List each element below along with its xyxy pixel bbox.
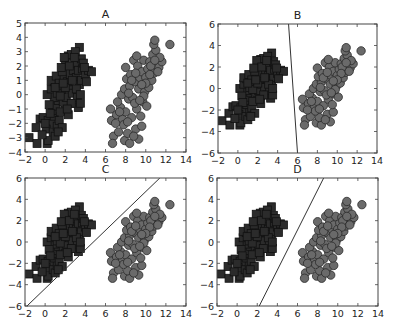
y-tick-label: 6 xyxy=(209,19,215,30)
subplot-title: C xyxy=(102,163,110,176)
x-tick-label: 12 xyxy=(352,308,364,319)
y-tick-label: −1 xyxy=(8,104,22,115)
subplot-a: A−202468101214−4−3−2−1012345 xyxy=(8,8,192,165)
y-axis: −6−4−20246 xyxy=(8,173,186,312)
subplot-title: B xyxy=(294,9,302,22)
y-axis: −6−4−20246 xyxy=(200,173,378,312)
y-tick-label: 1 xyxy=(16,75,22,86)
subplot-title: D xyxy=(293,163,301,176)
x-tick-label: 2 xyxy=(255,155,261,166)
y-tick-label: −2 xyxy=(8,118,22,129)
subplot-c: C−202468101214−6−4−20246 xyxy=(8,163,192,319)
x-tick-label: 8 xyxy=(123,308,129,319)
x-tick-label: 0 xyxy=(234,308,240,319)
y-tick-label: −4 xyxy=(200,279,214,290)
y-tick-label: −6 xyxy=(201,148,215,159)
figure: A−202468101214−4−3−2−1012345B−2024681012… xyxy=(0,0,394,329)
series-squares xyxy=(25,43,95,147)
series-circles xyxy=(298,43,365,129)
y-tick-label: −4 xyxy=(8,279,22,290)
y-tick-label: 6 xyxy=(16,173,22,184)
subplot-title: A xyxy=(102,8,110,21)
y-tick-label: 2 xyxy=(16,61,22,72)
y-axis: −6−4−20246 xyxy=(201,19,377,159)
series-circles xyxy=(298,197,366,282)
subplot-b: B−202468101214−6−4−20246 xyxy=(201,9,383,166)
y-tick-label: 4 xyxy=(209,40,215,51)
y-tick-label: 2 xyxy=(209,62,215,73)
x-tick-label: 8 xyxy=(315,308,321,319)
plot-area xyxy=(25,36,174,148)
x-tick-label: 12 xyxy=(160,308,172,319)
x-axis: −202468101214 xyxy=(18,178,192,319)
x-tick-label: 0 xyxy=(235,155,241,166)
x-tick-label: 12 xyxy=(351,155,363,166)
y-tick-label: 4 xyxy=(16,194,22,205)
x-tick-label: 2 xyxy=(254,308,260,319)
x-tick-label: 2 xyxy=(62,308,68,319)
series-squares xyxy=(25,203,95,282)
y-tick-label: 2 xyxy=(208,215,214,226)
y-tick-label: 5 xyxy=(16,18,22,29)
y-tick-label: −6 xyxy=(200,301,214,312)
x-tick-label: 2 xyxy=(62,154,68,165)
y-tick-label: −2 xyxy=(8,258,22,269)
y-tick-label: −6 xyxy=(8,301,22,312)
y-tick-label: 0 xyxy=(208,237,214,248)
series-circles xyxy=(106,36,174,148)
x-tick-label: 14 xyxy=(372,308,384,319)
y-tick-label: 3 xyxy=(16,46,22,57)
y-tick-label: 4 xyxy=(16,32,22,43)
x-tick-label: 4 xyxy=(82,308,88,319)
decision-boundary-line xyxy=(289,24,298,153)
figure-canvas: A−202468101214−4−3−2−1012345B−2024681012… xyxy=(0,0,394,329)
x-tick-label: 4 xyxy=(82,154,88,165)
y-tick-label: 6 xyxy=(208,173,214,184)
subplot-d: D−202468101214−6−4−20246 xyxy=(200,163,384,319)
x-tick-label: 14 xyxy=(180,154,192,165)
y-tick-label: −4 xyxy=(201,126,215,137)
y-tick-label: 0 xyxy=(209,83,215,94)
series-squares xyxy=(218,49,288,129)
x-tick-label: 12 xyxy=(160,154,172,165)
x-tick-label: 8 xyxy=(314,155,320,166)
y-tick-label: 0 xyxy=(16,89,22,100)
x-tick-label: 4 xyxy=(275,155,281,166)
x-tick-label: 10 xyxy=(332,308,344,319)
y-tick-label: −4 xyxy=(8,147,22,158)
y-axis: −4−3−2−1012345 xyxy=(8,18,186,158)
x-tick-label: 0 xyxy=(42,308,48,319)
plot-area xyxy=(217,178,366,306)
y-tick-label: 2 xyxy=(16,215,22,226)
y-tick-label: 0 xyxy=(16,237,22,248)
x-tick-label: 6 xyxy=(102,308,108,319)
x-tick-label: 14 xyxy=(371,155,383,166)
x-tick-label: 10 xyxy=(140,308,152,319)
y-tick-label: 4 xyxy=(208,194,214,205)
x-tick-label: 14 xyxy=(180,308,192,319)
plot-area xyxy=(25,178,174,306)
x-tick-label: 6 xyxy=(294,308,300,319)
x-tick-label: 8 xyxy=(123,154,129,165)
x-tick-label: 10 xyxy=(331,155,343,166)
x-axis: −202468101214 xyxy=(210,178,384,319)
y-tick-label: −3 xyxy=(8,132,22,143)
series-circles xyxy=(106,197,174,282)
plot-area xyxy=(218,24,365,153)
x-tick-label: 4 xyxy=(274,308,280,319)
x-tick-label: 10 xyxy=(140,154,152,165)
y-tick-label: −2 xyxy=(201,105,215,116)
x-tick-label: 0 xyxy=(42,154,48,165)
y-tick-label: −2 xyxy=(200,258,214,269)
